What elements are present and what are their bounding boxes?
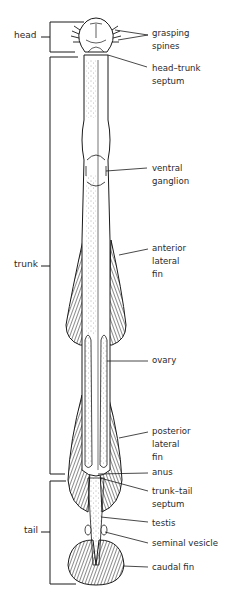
label-ventral-ganglion: ventral ganglion bbox=[152, 162, 189, 188]
label-posterior-lateral-fin: posterior lateral fin bbox=[152, 425, 191, 464]
seminal-vesicle-left bbox=[85, 525, 91, 535]
label-seminal-vesicle: seminal vesicle bbox=[152, 537, 218, 550]
region-label-head: head bbox=[14, 30, 36, 40]
label-testis: testis bbox=[152, 517, 175, 530]
ovary-right bbox=[100, 335, 107, 468]
region-label-trunk: trunk bbox=[14, 259, 38, 269]
region-label-tail: tail bbox=[24, 525, 38, 535]
head-bracket bbox=[41, 22, 84, 52]
label-trunk-tail-septum: trunk–tail septum bbox=[152, 485, 192, 511]
anterior-lateral-fin-right bbox=[108, 240, 126, 345]
label-anterior-lateral-fin: anterior lateral fin bbox=[152, 242, 186, 281]
anterior-lateral-fin-left bbox=[66, 240, 84, 345]
label-head-trunk-septum: head–trunk septum bbox=[152, 62, 201, 88]
label-caudal-fin: caudal fin bbox=[152, 561, 194, 574]
ovary-left bbox=[85, 335, 92, 468]
head bbox=[71, 18, 121, 52]
seminal-vesicle-right bbox=[101, 525, 107, 535]
label-grasping-spines: grasping spines bbox=[152, 27, 189, 53]
label-anus: anus bbox=[152, 466, 173, 479]
trunk-bracket bbox=[41, 57, 78, 474]
label-ovary: ovary bbox=[152, 354, 176, 367]
